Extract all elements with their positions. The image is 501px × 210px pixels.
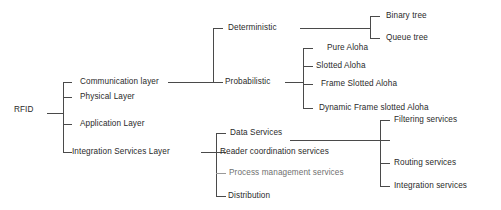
node-queue-tree: Queue tree [386, 33, 428, 43]
node-rfid: RFID [14, 105, 34, 115]
edge-stub-physical-layer [63, 97, 72, 98]
edge-stub-dynamic-frame-slotted-aloha [303, 108, 313, 109]
edge-stub-unlabeled-service [380, 140, 390, 141]
edge-communication-layer-connector [168, 82, 213, 83]
node-frame-slotted-aloha: Frame Slotted Aloha [321, 79, 397, 89]
node-distribution: Distribution [228, 191, 270, 201]
edge-stub-deterministic [213, 28, 223, 29]
node-routing-services: Routing services [394, 158, 456, 168]
edge-stub-frame-slotted-aloha [303, 84, 313, 85]
edge-stub-probabilistic [213, 82, 223, 83]
edge-deterministic-trunk [370, 16, 371, 39]
node-deterministic: Deterministic [228, 23, 277, 33]
edge-integration-trunk [216, 133, 217, 196]
edge-stub-slotted-aloha [303, 66, 313, 67]
edge-stub-binary-tree [370, 16, 380, 17]
node-reader-coordination-services: Reader coordination services [220, 147, 329, 157]
edge-root-stem [47, 113, 63, 114]
node-dynamic-frame-slotted-aloha: Dynamic Frame slotted Aloha [319, 103, 429, 113]
edge-stub-filtering-services [380, 120, 390, 121]
edge-stub-data-services [216, 133, 226, 134]
edge-probabilistic-connector [285, 82, 303, 83]
node-integration-services: Integration services [394, 181, 467, 191]
node-probabilistic: Probabilistic [225, 77, 270, 87]
edge-stub-integration-services [380, 186, 390, 187]
edge-stub-pure-aloha [303, 48, 313, 49]
edge-communication-trunk [213, 28, 214, 83]
node-physical-layer: Physical Layer [80, 92, 135, 102]
rfid-taxonomy-diagram: RFID Communication layer Physical Layer … [0, 0, 501, 210]
edge-probabilistic-trunk [303, 48, 304, 109]
edge-data-services-connector [290, 140, 380, 141]
node-application-layer: Application Layer [80, 119, 145, 129]
edge-stub-distribution [216, 196, 226, 197]
node-filtering-services: Filtering services [394, 115, 457, 125]
node-pure-aloha: Pure Aloha [327, 43, 368, 53]
node-slotted-aloha: Slotted Aloha [316, 61, 366, 71]
node-communication-layer: Communication layer [80, 77, 159, 87]
edge-stub-queue-tree [370, 38, 380, 39]
node-process-management-services: Process management services [229, 168, 344, 178]
node-integration-services-layer: Integration Services Layer [72, 147, 170, 157]
edge-stub-communication-layer [63, 82, 72, 83]
edge-stub-application-layer [63, 124, 72, 125]
node-data-services: Data Services [230, 128, 282, 138]
edge-stub-process-management-services [216, 173, 226, 174]
edge-integration-layer-connector [201, 152, 216, 153]
edge-stub-routing-services [380, 163, 390, 164]
edge-data-services-trunk [380, 120, 381, 186]
node-binary-tree: Binary tree [386, 11, 427, 21]
edge-deterministic-connector [300, 28, 370, 29]
edge-stub-integration-services-layer [63, 152, 72, 153]
edge-level1-trunk [63, 82, 64, 153]
